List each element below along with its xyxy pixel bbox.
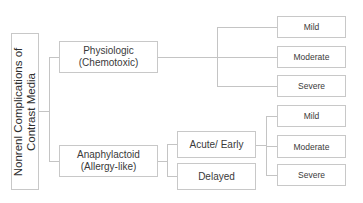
- connector-physiologic: [158, 57, 217, 58]
- connector-acute-mild: [266, 116, 277, 117]
- acute-mild-node: Mild: [277, 105, 346, 127]
- physiologic-moderate-label: Moderate: [294, 51, 330, 63]
- root-label-line1: Nonrenl Complications of: [12, 33, 25, 190]
- acute-mild-label: Mild: [304, 110, 320, 122]
- anaphylactoid-label-line1: Anaphylactoid: [77, 149, 140, 161]
- connector-phys-moderate: [217, 57, 277, 58]
- delayed-node: Delayed: [177, 163, 256, 190]
- physiologic-mild-label: Mild: [304, 21, 320, 33]
- connector-to-acute: [167, 144, 177, 145]
- physiologic-node: Physiologic (Chemotoxic): [59, 41, 158, 73]
- connector-root: [39, 111, 49, 112]
- delayed-label: Delayed: [198, 171, 235, 183]
- physiologic-label-line1: Physiologic: [83, 45, 134, 57]
- connector-root-vertical: [49, 57, 50, 162]
- connector-acute-severe: [266, 175, 277, 176]
- connector-to-anaphylactoid: [49, 161, 59, 162]
- physiologic-severe-label: Severe: [298, 80, 325, 92]
- physiologic-label-line2: (Chemotoxic): [79, 57, 138, 69]
- connector-phys-mild: [217, 27, 277, 28]
- connector-acute: [256, 145, 266, 146]
- physiologic-severe-node: Severe: [277, 75, 346, 97]
- root-label-line2: Contrast Media: [25, 33, 38, 190]
- physiologic-mild-node: Mild: [277, 16, 346, 38]
- connector-phys-severe: [217, 86, 277, 87]
- anaphylactoid-node: Anaphylactoid (Allergy-like): [59, 145, 158, 177]
- acute-severe-node: Severe: [277, 164, 346, 186]
- acute-moderate-label: Moderate: [294, 141, 330, 153]
- acute-severe-label: Severe: [298, 169, 325, 181]
- acute-moderate-node: Moderate: [277, 135, 346, 158]
- physiologic-moderate-node: Moderate: [277, 46, 346, 68]
- acute-early-node: Acute/ Early: [177, 131, 256, 158]
- connector-acute-moderate: [266, 146, 277, 147]
- acute-early-label: Acute/ Early: [190, 139, 244, 151]
- anaphylactoid-label-line2: (Allergy-like): [81, 161, 137, 173]
- connector-to-physiologic: [49, 57, 59, 58]
- root-label: Nonrenl Complications of Contrast Media: [12, 33, 38, 190]
- connector-to-delayed: [167, 176, 177, 177]
- connector-anaphylactoid-vertical: [167, 144, 168, 177]
- connector-anaphylactoid: [158, 161, 167, 162]
- root-node: Nonrenl Complications of Contrast Media: [11, 33, 39, 190]
